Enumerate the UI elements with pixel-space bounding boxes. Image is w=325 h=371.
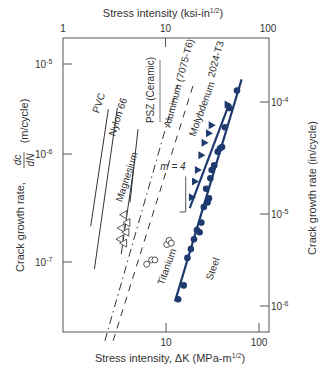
y-right-tick-label: 10-5: [271, 208, 288, 220]
marker-steel: [211, 162, 218, 169]
marker-steel: [234, 87, 241, 94]
bottom-axis-title-sup: 1/2: [232, 352, 242, 359]
left-axis-title: Crack growth rate, dc dN (m/cycle): [12, 99, 36, 272]
left-axis-title-unit: (m/cycle): [18, 99, 30, 144]
y-left-tick-label: 10-7: [35, 256, 52, 268]
label-psz-ceramic: PSZ (Ceramic): [145, 57, 156, 123]
marker-titanium: [168, 240, 174, 246]
top-axis-title-sup: 1/2: [210, 7, 220, 14]
label-magnesium: Magnesium: [113, 151, 139, 204]
x-bottom-tick-label: 10: [160, 337, 172, 348]
right-axis-title: Crack growth rate (in/cycle): [306, 121, 318, 255]
plot-frame: [63, 38, 269, 332]
crack-growth-chart: Stress intensity (ksi-in1/2) Stress inte…: [0, 0, 325, 371]
marker-molybdenum: [198, 151, 205, 159]
label-molybdenum: Molybdenum: [187, 80, 217, 138]
label-aluminum-7075-t6: Aluminum (7075-T6): [162, 38, 196, 129]
marker-steel: [226, 105, 233, 112]
marker-steel: [184, 255, 191, 262]
marker-steel: [191, 236, 198, 243]
label-nylon-66: Nylon 66: [106, 96, 129, 137]
marker-steel: [180, 282, 187, 289]
bottom-axis-title: Stress intensity, ΔK (MPa-m1/2): [95, 352, 245, 364]
marker-steel: [222, 124, 229, 131]
marker-molybdenum: [206, 129, 213, 137]
marker-molybdenum: [195, 166, 202, 174]
material-labels: PVCNylon 66MagnesiumPSZ (Ceramic)Aluminu…: [90, 38, 226, 287]
x-top-tick-label: 10: [160, 23, 172, 34]
marker-molybdenum: [202, 139, 209, 147]
label-steel: Steel: [204, 256, 222, 281]
marker-magnesium: [120, 211, 127, 219]
left-axis-title-numerator: dc: [12, 155, 23, 166]
x-top-tick-label: 1: [60, 23, 66, 34]
marker-titanium: [152, 257, 158, 263]
label-titanium: Titanium: [155, 247, 178, 286]
left-axis-title-prefix: Crack growth rate,: [14, 182, 26, 272]
marker-steel: [206, 195, 213, 202]
y-left-tick-label: 10-5: [35, 58, 52, 70]
y-right-tick-label: 10-4: [271, 96, 288, 108]
y-right-tick-label: 10-6: [271, 300, 288, 312]
label-m-4: m = 4: [160, 161, 186, 172]
x-top-tick-label: 100: [260, 23, 277, 34]
marker-steel: [175, 296, 182, 303]
marker-magnesium: [117, 224, 124, 232]
data-markers: [116, 87, 240, 302]
marker-steel: [207, 175, 214, 182]
marker-molybdenum: [209, 121, 216, 129]
marker-steel: [203, 185, 210, 192]
trend-line-pvc: [91, 109, 109, 226]
marker-steel: [198, 219, 205, 226]
x-bottom-tick-label: 100: [251, 337, 268, 348]
top-axis-title: Stress intensity (ksi-in1/2): [103, 7, 223, 19]
label-pvc: PVC: [90, 91, 107, 114]
marker-steel: [196, 229, 203, 236]
marker-steel: [219, 144, 226, 151]
label-2024-t3: 2024-T3: [205, 39, 225, 78]
marker-titanium: [144, 261, 150, 267]
slope-triangle: [180, 177, 186, 212]
marker-steel: [188, 246, 195, 253]
y-left-tick-label: 10-6: [35, 148, 52, 160]
